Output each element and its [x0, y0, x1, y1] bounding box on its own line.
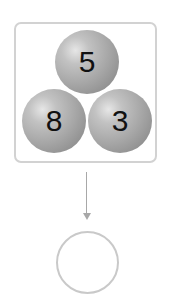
- down-arrow-line: [86, 172, 87, 214]
- down-arrow-icon: [83, 213, 91, 220]
- ball-number: 8: [46, 106, 63, 136]
- ball-number: 3: [112, 106, 129, 136]
- ball-number: 5: [79, 47, 96, 77]
- ball-top: 5: [55, 30, 119, 94]
- ball-bottom-left: 8: [22, 89, 86, 153]
- answer-circle[interactable]: [56, 231, 119, 294]
- ball-bottom-right: 3: [88, 89, 152, 153]
